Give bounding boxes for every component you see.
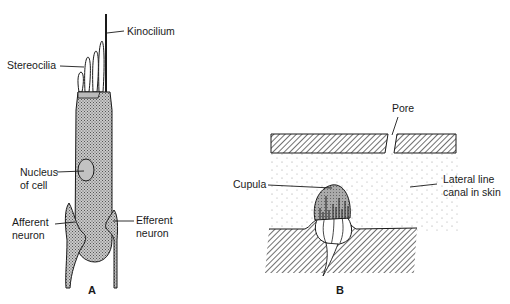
figure-canvas: Kinocilium Stereocilia Nucleus of cell A… — [0, 0, 510, 304]
label-afferent-line1: Afferent — [12, 216, 49, 228]
label-efferent-line1: Efferent — [136, 214, 173, 226]
panel-label-a: A — [88, 284, 96, 296]
lateral-line-canal — [268, 153, 460, 233]
cuticular-plate — [78, 92, 100, 98]
label-pore: Pore — [392, 102, 414, 114]
label-canal-line1: Lateral line — [443, 173, 495, 185]
label-canal-line2: canal in skin — [443, 186, 501, 198]
label-afferent-line2: neuron — [12, 229, 45, 241]
label-nucleus-line2: of cell — [20, 179, 47, 191]
skin-upper-left — [271, 134, 388, 153]
label-cupula: Cupula — [233, 178, 266, 190]
panel-label-b: B — [336, 284, 344, 296]
skin-upper-right — [394, 134, 456, 153]
nucleus — [78, 159, 94, 181]
panel-b: Pore Cupula Lateral line canal in skin B — [233, 102, 501, 296]
label-nucleus-line1: Nucleus — [20, 166, 58, 178]
label-stereocilia: Stereocilia — [7, 59, 56, 71]
label-kinocilium: Kinocilium — [127, 25, 175, 37]
label-efferent-line2: neuron — [136, 227, 169, 239]
panel-a: Kinocilium Stereocilia Nucleus of cell A… — [7, 14, 175, 296]
